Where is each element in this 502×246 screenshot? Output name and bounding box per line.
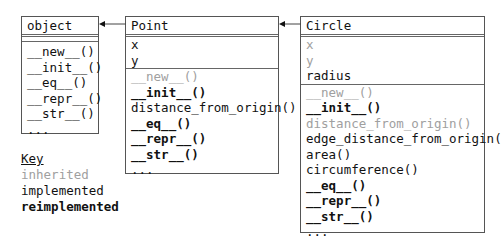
arrowhead-icon (279, 21, 285, 27)
method: distance_from_origin() (306, 116, 484, 132)
attributes-section: x y (126, 37, 278, 69)
methods-section: __new__() __init__() distance_from_origi… (126, 69, 278, 178)
attribute: y (131, 53, 278, 69)
method: distance_from_origin() (131, 100, 278, 116)
methods-section: __new__() __init__() distance_from_origi… (301, 85, 484, 240)
attribute: x (131, 37, 278, 53)
class-name: Point (126, 17, 278, 37)
legend-item-inherited: inherited (21, 167, 119, 183)
method: ... (131, 162, 278, 178)
class-name: object (22, 17, 98, 37)
method: __init__() (306, 100, 484, 116)
inheritance-arrow-circle-point (278, 19, 301, 29)
class-object: object __new__() __init__() __eq__() __r… (21, 16, 99, 134)
method: edge_distance_from_origin() (306, 131, 484, 147)
attributes-section: x y radius (301, 37, 484, 85)
method: ... (27, 122, 98, 138)
method: ... (306, 224, 484, 240)
methods-section: __new__() __init__() __eq__() __repr__()… (22, 42, 98, 137)
inheritance-arrow-point-object (98, 19, 126, 29)
method: __str__() (131, 147, 278, 163)
method: circumference() (306, 162, 484, 178)
legend-item-reimplemented: reimplemented (21, 199, 119, 215)
class-point: Point x y __new__() __init__() distance_… (125, 16, 279, 174)
method: __eq__() (131, 116, 278, 132)
method: __new__() (27, 44, 98, 60)
method: __str__() (306, 209, 484, 225)
arrowhead-icon (99, 21, 105, 27)
method: __new__() (306, 85, 484, 101)
method: __repr__() (306, 193, 484, 209)
class-name: Circle (301, 17, 484, 37)
attribute: y (306, 53, 484, 69)
legend-item-implemented: implemented (21, 183, 119, 199)
attribute: radius (306, 68, 484, 84)
attribute: x (306, 37, 484, 53)
method: __repr__() (27, 91, 98, 107)
method: __init__() (131, 85, 278, 101)
method: __eq__() (27, 75, 98, 91)
method: __init__() (27, 60, 98, 76)
class-circle: Circle x y radius __new__() __init__() d… (300, 16, 485, 233)
legend: Key inherited implemented reimplemented (21, 150, 119, 215)
legend-title: Key (21, 150, 119, 167)
method: __new__() (131, 69, 278, 85)
method: area() (306, 147, 484, 163)
method: __str__() (27, 106, 98, 122)
method: __eq__() (306, 178, 484, 194)
method: __repr__() (131, 131, 278, 147)
